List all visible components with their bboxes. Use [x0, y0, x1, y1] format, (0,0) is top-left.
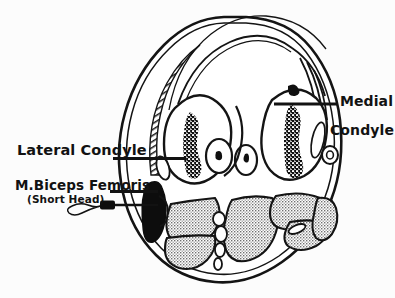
label-medial-condyle-line1: Medial — [340, 93, 393, 109]
label-medial-condyle-line2: Condyle — [330, 123, 394, 138]
label-biceps-femoris: M.Biceps Femoris — [15, 178, 150, 192]
posterior-muscle-group — [165, 193, 337, 269]
label-medial-condyle: Medial Condyle — [330, 79, 394, 153]
label-lateral-condyle: Lateral Condyle — [17, 143, 147, 158]
label-short-head: (Short Head) — [27, 194, 104, 205]
muscle-belly-far-medial — [312, 198, 337, 241]
needle-wire — [68, 204, 100, 215]
